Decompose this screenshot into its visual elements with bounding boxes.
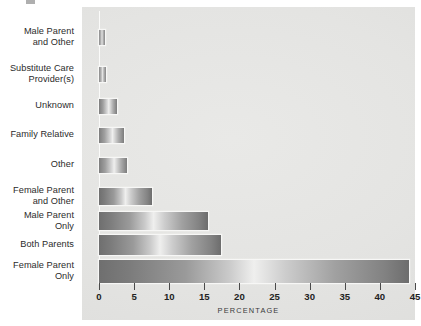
bar-fill — [99, 188, 152, 205]
category-label: Unknown — [0, 100, 74, 111]
category-label: Female ParentOnly — [0, 260, 74, 282]
category-label: Both Parents — [0, 239, 74, 250]
bar-fill — [99, 158, 127, 173]
bar — [99, 30, 105, 45]
figure-bar-chart: Male Parentand OtherSubstitute CareProvi… — [0, 0, 421, 326]
bar — [99, 260, 409, 283]
x-axis-tick-label: 0 — [87, 291, 111, 302]
x-axis-tick-label: 5 — [122, 291, 146, 302]
category-label-line: Male Parent — [0, 210, 74, 221]
bar — [99, 188, 152, 205]
x-axis-tick — [380, 283, 381, 290]
bar-fill — [99, 67, 106, 82]
category-label-line: Male Parent — [0, 26, 74, 37]
category-label-line: Substitute Care — [0, 63, 74, 74]
cropped-caption-mark — [26, 0, 35, 4]
x-axis-tick-label: 45 — [403, 291, 421, 302]
category-label: Female Parentand Other — [0, 185, 74, 207]
bar-fill — [99, 235, 221, 255]
category-label-line: Both Parents — [0, 239, 74, 250]
category-label-line: and Other — [0, 37, 74, 48]
x-axis-tick-label: 10 — [157, 291, 181, 302]
x-axis-tick — [99, 283, 100, 290]
bar — [99, 67, 106, 82]
x-axis-tick-label: 40 — [368, 291, 392, 302]
bar-fill — [99, 212, 208, 230]
x-axis-tick — [310, 283, 311, 290]
plot-area: 051015202530354045 PERCENTAGE — [82, 7, 415, 320]
x-axis-tick-label: 25 — [263, 291, 287, 302]
x-axis-tick-label: 15 — [192, 291, 216, 302]
bar-fill — [99, 128, 124, 143]
x-axis-tick-label: 30 — [298, 291, 322, 302]
category-label: Family Relative — [0, 129, 74, 140]
category-label: Male Parentand Other — [0, 26, 74, 48]
bar-fill — [99, 260, 409, 283]
x-axis-title: PERCENTAGE — [82, 306, 415, 315]
category-label-line: Other — [0, 159, 74, 170]
x-axis-tick — [275, 283, 276, 290]
bar — [99, 99, 117, 114]
bar — [99, 235, 221, 255]
x-axis-tick — [204, 283, 205, 290]
category-label-line: Female Parent — [0, 260, 74, 271]
bar-rows — [82, 7, 415, 279]
category-label-line: Only — [0, 221, 74, 232]
bar — [99, 158, 127, 173]
x-axis-tick — [415, 283, 416, 290]
category-label-line: Family Relative — [0, 129, 74, 140]
x-axis: 051015202530354045 — [99, 283, 415, 303]
x-axis-tick-label: 20 — [227, 291, 251, 302]
category-label: Male ParentOnly — [0, 210, 74, 232]
x-axis-tick — [345, 283, 346, 290]
category-label-line: Only — [0, 271, 74, 282]
x-axis-tick — [134, 283, 135, 290]
x-axis-tick — [169, 283, 170, 290]
x-axis-tick-label: 35 — [333, 291, 357, 302]
category-label-line: Female Parent — [0, 185, 74, 196]
bar — [99, 128, 124, 143]
bar-fill — [99, 30, 105, 45]
bar — [99, 212, 208, 230]
category-axis-labels: Male Parentand OtherSubstitute CareProvi… — [0, 7, 78, 279]
bar-fill — [99, 99, 117, 114]
category-label-line: and Other — [0, 196, 74, 207]
category-label: Substitute CareProvider(s) — [0, 63, 74, 85]
category-label-line: Unknown — [0, 100, 74, 111]
x-axis-tick — [239, 283, 240, 290]
category-label: Other — [0, 159, 74, 170]
category-label-line: Provider(s) — [0, 74, 74, 85]
